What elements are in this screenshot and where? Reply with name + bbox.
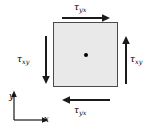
stress-label-left: τxy [17,55,29,65]
shear-arrow-left-down-icon [42,36,50,84]
element-center-dot [84,53,88,57]
stress-subscript-left: xy [22,58,29,66]
stress-subscript-right: xy [135,58,142,66]
shear-stress-element-figure: τyx τyx τxy τxy y x [0,0,157,129]
stress-label-bottom: τyx [74,106,86,116]
stress-subscript-top: yx [79,6,86,14]
shear-arrow-bottom-left-icon [62,96,110,104]
stress-label-right: τxy [130,55,142,65]
stress-label-top: τyx [74,3,86,13]
stress-subscript-bottom: yx [79,109,86,117]
shear-arrow-right-up-icon [122,36,130,84]
shear-arrow-top-right-icon [62,14,110,22]
axis-label-x: x [44,115,49,124]
axis-label-y: y [9,92,14,101]
